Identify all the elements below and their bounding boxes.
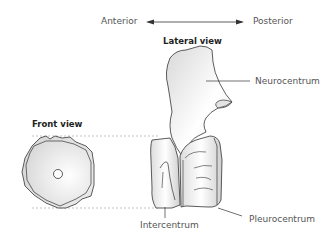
- anterior-label: Anterior: [101, 17, 137, 26]
- front-view-title: Front view: [32, 120, 82, 129]
- posterior-label: Posterior: [253, 17, 293, 26]
- neural-canal-icon: [54, 170, 63, 179]
- leader-pleurocentrum: [218, 208, 242, 216]
- lateral-view-title: Lateral view: [163, 37, 222, 46]
- neurocentrum-label: Neurocentrum: [255, 77, 320, 86]
- pleurocentrum-label: Pleurocentrum: [249, 215, 315, 224]
- intercentrum-label: Intercentrum: [140, 221, 199, 230]
- front-view-vertebra: [22, 136, 94, 208]
- double-headed-arrow-icon: [146, 20, 244, 25]
- centrum-block: [151, 136, 222, 208]
